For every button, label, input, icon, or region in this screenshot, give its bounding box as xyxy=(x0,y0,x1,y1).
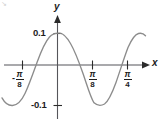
fraction-numerator: π xyxy=(89,70,97,79)
fraction-numerator: π xyxy=(124,70,132,79)
fraction-denominator: 8 xyxy=(90,80,94,89)
fraction-denominator: 4 xyxy=(125,80,129,89)
fraction: π 8 xyxy=(16,70,24,89)
y-axis xyxy=(54,15,61,119)
x-axis-arrowhead xyxy=(142,62,150,69)
fraction: π 8 xyxy=(89,70,97,89)
math-graph-figure: ↘ y x 0.1 -0.1 - xyxy=(0,0,163,119)
x-tick-label-pi-over-8: π 8 xyxy=(88,70,97,89)
minus-sign: - xyxy=(12,74,15,83)
y-axis-label: y xyxy=(54,2,60,12)
fraction-denominator: 8 xyxy=(17,80,21,89)
y-axis-arrowhead xyxy=(54,15,61,23)
x-tick-label-pi-over-4: π 4 xyxy=(123,70,132,89)
x-axis-label: x xyxy=(152,58,158,68)
y-tick-label-positive: 0.1 xyxy=(33,28,46,38)
y-tick-label-negative: -0.1 xyxy=(31,100,47,110)
fraction: π 4 xyxy=(124,70,132,89)
x-axis xyxy=(4,62,150,69)
x-tick-label-neg-pi-over-8: - π 8 xyxy=(12,70,24,89)
fraction-numerator: π xyxy=(16,70,24,79)
coordinate-plane-svg xyxy=(0,0,163,119)
